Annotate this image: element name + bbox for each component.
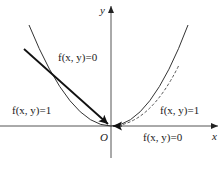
region-label-left: f(x, y)=1 xyxy=(12,104,51,117)
origin-label: O xyxy=(100,131,108,143)
region-label-below-right: f(x, y)=0 xyxy=(143,131,183,144)
x-axis-label: x xyxy=(211,130,217,142)
region-label-right: f(x, y)=1 xyxy=(160,104,199,117)
region-label-upper-middle: f(x, y)=0 xyxy=(58,51,98,64)
dashed-curve xyxy=(113,65,179,126)
y-axis-label: y xyxy=(99,4,105,16)
diagram-canvas: y x O f(x, y)=0 f(x, y)=1 f(x, y)=1 f(x,… xyxy=(0,0,223,175)
